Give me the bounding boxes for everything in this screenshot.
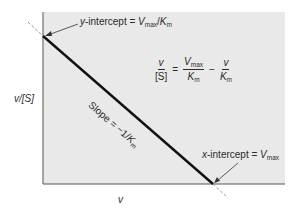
label-text: -intercept = — [85, 16, 138, 27]
subscript: m — [167, 21, 172, 28]
x-axis-label: v — [118, 195, 123, 205]
numerator: Vmax — [183, 56, 204, 70]
term2-fraction: v Km — [220, 57, 232, 83]
vmax-symbol: V — [138, 16, 145, 27]
subscript: m — [194, 76, 199, 83]
eadie-hofstee-equation: v [S] = Vmax Km − v Km — [155, 56, 232, 83]
extrapolation-top — [28, 22, 43, 36]
subscript: max — [267, 154, 279, 161]
y-intercept-label: y-intercept = Vmax/Km — [80, 17, 172, 29]
eadie-hofstee-plot — [0, 0, 294, 213]
subscript: m — [227, 76, 232, 83]
x-axis-label-text: v — [118, 194, 123, 205]
numerator: v — [222, 57, 229, 70]
x-intercept-label: x-intercept = Vmax — [202, 150, 279, 162]
term1-fraction: Vmax Km — [183, 56, 204, 83]
denominator: [S] — [155, 70, 167, 82]
equals-sign: = — [172, 64, 178, 75]
denominator: Km — [188, 70, 200, 83]
denominator: Km — [220, 70, 232, 83]
lhs-fraction: v [S] — [155, 57, 167, 82]
y-axis-label-text: v/[S] — [14, 93, 34, 104]
numerator: v — [158, 57, 165, 70]
y-axis-label: v/[S] — [14, 94, 34, 104]
vmax-symbol: V — [260, 149, 267, 160]
minus-sign: − — [209, 64, 215, 75]
km-symbol: K — [220, 71, 227, 82]
subscript: max — [145, 21, 157, 28]
label-text: -intercept = — [207, 149, 260, 160]
vmax-symbol: V — [184, 56, 191, 67]
subscript: max — [191, 61, 203, 68]
km-symbol: K — [160, 16, 167, 27]
extrapolation-bottom — [213, 184, 228, 198]
